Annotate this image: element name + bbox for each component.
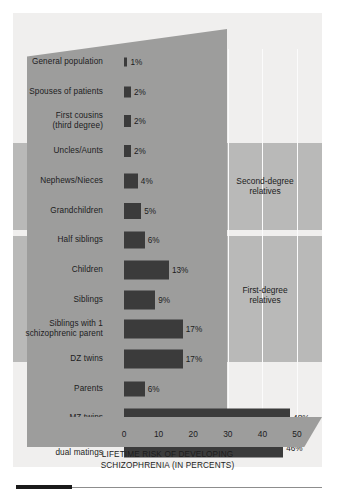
category-label: Spouses of patients bbox=[29, 87, 103, 97]
category-label: Nephews/Nieces bbox=[40, 176, 103, 186]
bar bbox=[124, 86, 131, 97]
bar bbox=[124, 381, 145, 396]
category-label: Grandchildren bbox=[50, 206, 103, 216]
x-tick-20: 20 bbox=[189, 429, 198, 439]
bar-value-label: 5% bbox=[144, 206, 156, 215]
bar-row: Parents6% bbox=[13, 374, 322, 404]
bar-value-label: 2% bbox=[134, 147, 146, 156]
bar-value-label: 9% bbox=[158, 295, 170, 304]
plot-area: General population1%Spouses of patients2… bbox=[13, 13, 322, 467]
bar-row: Grandchildren5% bbox=[13, 196, 322, 226]
x-tick-30: 30 bbox=[223, 429, 232, 439]
bar-value-label: 17% bbox=[186, 325, 202, 334]
bar bbox=[124, 350, 183, 369]
bar bbox=[124, 58, 127, 67]
x-tick-50: 50 bbox=[292, 429, 301, 439]
bar-value-label: 2% bbox=[134, 87, 146, 96]
x-tick-40: 40 bbox=[258, 429, 267, 439]
category-label: DZ twins bbox=[70, 354, 103, 364]
x-tick-10: 10 bbox=[154, 429, 163, 439]
bar bbox=[124, 320, 183, 339]
bar-row: Children13% bbox=[13, 255, 322, 285]
bar-row: Half siblings6% bbox=[13, 225, 322, 255]
bar bbox=[124, 290, 155, 309]
category-label: Children bbox=[72, 265, 103, 275]
bar-value-label: 2% bbox=[134, 117, 146, 126]
bar-value-label: 17% bbox=[186, 355, 202, 364]
category-label: Parents bbox=[74, 384, 103, 394]
bar bbox=[124, 203, 141, 219]
bar-value-label: 13% bbox=[172, 265, 188, 274]
category-label: Siblings bbox=[74, 295, 103, 305]
category-label: Half siblings bbox=[58, 235, 103, 245]
bar-value-label: 6% bbox=[148, 236, 160, 245]
bar-row: Uncles/Aunts2% bbox=[13, 136, 322, 166]
group-caption-second-degree: Second-degree relatives bbox=[223, 176, 307, 196]
bar-row: Spouses of patients2% bbox=[13, 77, 322, 107]
category-label: First cousins (third degree) bbox=[52, 112, 103, 131]
bar-value-label: 4% bbox=[141, 176, 153, 185]
bar-value-label: 1% bbox=[130, 58, 142, 67]
chart-figure: General population1%Spouses of patients2… bbox=[13, 13, 322, 467]
bar-row: General population1% bbox=[13, 47, 322, 77]
category-label: Uncles/Aunts bbox=[54, 146, 103, 156]
category-label: Siblings with 1 schizophrenic parent bbox=[25, 320, 103, 339]
bar bbox=[124, 232, 145, 249]
category-label: General population bbox=[32, 57, 103, 67]
x-tick-0: 0 bbox=[122, 429, 127, 439]
bar bbox=[124, 260, 169, 279]
bar bbox=[124, 173, 138, 188]
footer-rule-accent bbox=[16, 485, 72, 489]
bar-row: Siblings with 1 schizophrenic parent17% bbox=[13, 314, 322, 344]
x-axis-band bbox=[27, 417, 322, 447]
bar bbox=[124, 115, 131, 127]
x-axis-title: LIFETIME RISK OF DEVELOPING SCHIZOPHRENI… bbox=[13, 450, 322, 471]
group-caption-first-degree: First-degree relatives bbox=[223, 285, 307, 305]
bar-row: First cousins (third degree)2% bbox=[13, 106, 322, 136]
bar-value-label: 6% bbox=[148, 384, 160, 393]
bar-row: DZ twins17% bbox=[13, 344, 322, 374]
bar bbox=[124, 145, 131, 157]
